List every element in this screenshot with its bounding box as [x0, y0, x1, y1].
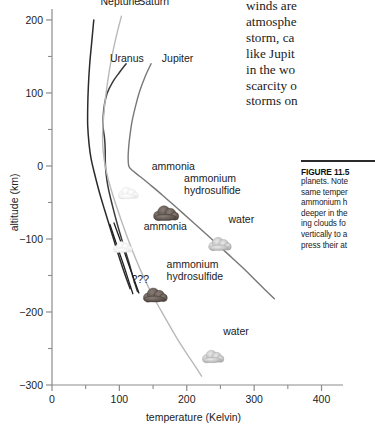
cloud-marker-ammonium-hydrosulfide	[154, 206, 179, 221]
caption-line-2: ammonium h	[301, 198, 375, 209]
body-line-2: storm, ca	[246, 30, 375, 46]
svg-text:−300: −300	[19, 379, 43, 391]
caption-line-0: planets. Note	[301, 177, 375, 188]
svg-text:300: 300	[245, 393, 263, 405]
svg-text:temperature (Kelvin): temperature (Kelvin)	[146, 411, 241, 423]
curve-label-saturn: Saturn	[138, 0, 169, 7]
curve-saturn	[103, 16, 202, 376]
svg-text:400: 400	[313, 393, 331, 405]
cloud-marker-water	[203, 350, 224, 363]
figure-caption: FIGURE 11.5 planets. Note same temper am…	[301, 160, 375, 251]
caption-line-4: ing clouds fo	[301, 219, 375, 230]
cloud-label-ammonium-hydrosulfide-4: ammonium	[167, 258, 219, 270]
curve-unknown-deep-branch-a	[110, 224, 133, 293]
cloud-label-ammonia-3: ammonia	[144, 220, 187, 232]
caption-body: planets. Note same temper ammonium h dee…	[301, 177, 375, 251]
caption-line-6: press their at	[301, 241, 375, 252]
cloud-label-water-5: water	[222, 325, 249, 337]
curve-label-unknown-deep-branch-a: ???	[132, 273, 150, 285]
body-line-5: scarcity o	[246, 78, 375, 94]
cloud-label-ammonia-0: ammonia	[152, 160, 195, 172]
caption-divider	[301, 160, 375, 162]
curve-label-neptune: Neptune	[101, 0, 141, 7]
svg-text:200: 200	[178, 393, 196, 405]
svg-text:−200: −200	[19, 306, 43, 318]
curve-label-jupiter: Jupiter	[162, 52, 194, 64]
cloud-label-water-2: water	[228, 213, 255, 225]
curve-label-uranus: Uranus	[110, 52, 144, 64]
svg-text:0: 0	[37, 160, 43, 172]
cloud-marker-ammonia	[118, 187, 138, 199]
chart-labels: NeptuneUranusSaturnJupiter???ammoniaammo…	[101, 0, 255, 337]
svg-text:−100: −100	[19, 233, 43, 245]
cloud-marker-ammonium-hydrosulfide	[143, 288, 167, 302]
body-line-1: atmosphe	[246, 14, 375, 30]
caption-line-1: same temper	[301, 188, 375, 199]
article-body-text: winds are atmosphe storm, ca like Jupit …	[246, 0, 375, 109]
body-line-6: storms on	[246, 93, 375, 109]
body-line-0: winds are	[246, 0, 375, 14]
svg-text:100: 100	[25, 87, 43, 99]
svg-text:0: 0	[49, 393, 55, 405]
svg-text:altitude (km): altitude (km)	[8, 174, 20, 232]
cloud-label-ammonium-hydrosulfide-4: hydrosulfide	[167, 270, 224, 282]
body-line-4: in the wo	[246, 62, 375, 78]
svg-text:200: 200	[25, 14, 43, 26]
caption-line-5: vertically to a	[301, 230, 375, 241]
caption-line-3: deeper in the	[301, 209, 375, 220]
cloud-label-ammonium-hydrosulfide-1: hydrosulfide	[184, 184, 241, 196]
caption-heading: FIGURE 11.5	[301, 167, 375, 177]
figure-root: 2001000−100−200−3000100200300400temperat…	[0, 0, 375, 426]
cloud-label-ammonium-hydrosulfide-1: ammonium	[184, 172, 236, 184]
body-line-3: like Jupit	[246, 46, 375, 62]
svg-text:100: 100	[111, 393, 129, 405]
